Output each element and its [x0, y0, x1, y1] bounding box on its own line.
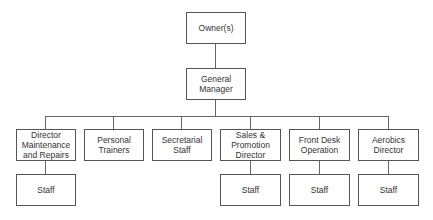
connector-staff-0 — [45, 161, 46, 174]
connector-dept-0 — [45, 116, 46, 129]
dept-box-maintenance: Director Maintenance and Repairs — [16, 129, 76, 161]
staff-box-maintenance: Staff — [16, 174, 76, 206]
connector-dept-2 — [181, 116, 182, 129]
staff-box-front-desk: Staff — [289, 174, 350, 206]
general-manager-box: General Manager — [186, 68, 246, 100]
connector-dept-3 — [250, 116, 251, 129]
dept-box-sales-promotion: Sales & Promotion Director — [220, 129, 281, 161]
connector-owner-manager — [215, 43, 216, 68]
connector-dept-5 — [388, 116, 389, 129]
dept-box-aerobics: Aerobics Director — [358, 129, 419, 161]
owner-box: Owner(s) — [186, 12, 246, 44]
connector-manager-bus — [215, 100, 216, 116]
staff-box-aerobics: Staff — [358, 174, 419, 206]
connector-staff-5 — [388, 161, 389, 174]
dept-box-personal-trainers: Personal Trainers — [84, 129, 144, 161]
connector-dept-4 — [319, 116, 320, 129]
connector-staff-3 — [250, 161, 251, 174]
dept-box-front-desk: Front Desk Operation — [289, 129, 350, 161]
dept-box-secretarial: Secretarial Staff — [152, 129, 212, 161]
connector-department-bus — [45, 116, 389, 117]
connector-dept-1 — [113, 116, 114, 129]
staff-box-sales-promotion: Staff — [220, 174, 281, 206]
connector-staff-4 — [319, 161, 320, 174]
